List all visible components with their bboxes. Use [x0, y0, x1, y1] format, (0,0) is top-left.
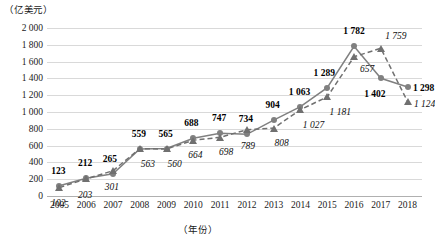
x-axis-tick: 2011	[211, 200, 230, 210]
x-axis-tick: 2016	[345, 200, 364, 210]
plot-area: 2 0001 8001 6001 4001 2001 0008006004002…	[47, 28, 422, 196]
gridline	[47, 196, 422, 197]
y-axis-tick: 1 400	[0, 73, 43, 83]
y-axis-tick: 600	[0, 141, 43, 151]
y-axis-tick: 1 200	[0, 90, 43, 100]
data-point-circle	[378, 75, 384, 81]
data-point-triangle	[270, 125, 278, 132]
data-label-series-a: 734	[239, 114, 253, 124]
x-axis-tick: 2009	[157, 200, 176, 210]
data-point-triangle	[109, 167, 117, 174]
data-point-circle	[405, 84, 411, 90]
y-axis-tick: 2 000	[0, 23, 43, 33]
x-axis-title: （年份）	[178, 222, 218, 236]
data-label-series-b: 203	[78, 190, 92, 200]
data-point-triangle	[136, 145, 144, 152]
data-label-series-b: 563	[141, 159, 155, 169]
data-label-series-a: 1 289	[314, 68, 335, 78]
data-label-series-a: 123	[51, 166, 65, 176]
data-label-series-a: 565	[158, 129, 172, 139]
data-point-triangle	[189, 137, 197, 144]
y-axis-tick: 1 600	[0, 57, 43, 67]
line-series-a	[59, 46, 407, 185]
data-label-series-a: 688	[184, 118, 198, 128]
x-axis-tick: 2017	[371, 200, 390, 210]
x-axis-tick: 2006	[77, 200, 96, 210]
x-axis-tick: 2010	[184, 200, 203, 210]
data-label-series-a: 747	[212, 113, 226, 123]
data-label-series-a: 212	[78, 158, 92, 168]
y-axis-tick: 1 000	[0, 107, 43, 117]
series-lines	[47, 28, 422, 196]
data-label-series-b: 1 181	[330, 107, 351, 117]
data-label-series-b: 560	[167, 159, 181, 169]
data-label-series-a: 1 782	[343, 26, 364, 36]
data-label-series-b: 1 027	[303, 120, 324, 130]
data-point-triangle	[55, 184, 63, 191]
data-label-series-b: 1 759	[385, 31, 406, 41]
data-label-series-a: 559	[132, 129, 146, 139]
data-label-series-b: 102	[51, 198, 65, 208]
data-label-series-a: 265	[103, 154, 117, 164]
x-axis-tick: 2018	[398, 200, 417, 210]
data-point-triangle	[243, 126, 251, 133]
data-label-series-b: 301	[105, 182, 119, 192]
data-point-triangle	[323, 93, 331, 100]
x-axis-tick: 2013	[264, 200, 283, 210]
data-label-series-a: 1 063	[289, 87, 310, 97]
y-axis-tick: 800	[0, 124, 43, 134]
data-label-series-b: 657	[360, 64, 374, 74]
data-point-triangle	[82, 175, 90, 182]
data-label-series-b: 789	[241, 141, 255, 151]
data-label-series-a: 1 402	[364, 89, 385, 99]
data-label-series-a: 1 298	[413, 83, 434, 93]
data-point-triangle	[404, 98, 412, 105]
y-axis-unit-label: （亿美元）	[4, 2, 53, 16]
data-label-series-a: 904	[266, 100, 280, 110]
data-point-circle	[271, 117, 277, 123]
data-point-triangle	[163, 145, 171, 152]
data-point-circle	[324, 85, 330, 91]
data-label-series-b: 808	[275, 138, 289, 148]
x-axis-tick: 2015	[318, 200, 337, 210]
y-axis-tick: 200	[0, 174, 43, 184]
data-label-series-b: 698	[219, 147, 233, 157]
x-axis-tick: 2012	[237, 200, 256, 210]
data-label-series-b: 1 124	[414, 99, 435, 109]
data-point-triangle	[350, 53, 358, 60]
y-axis-tick: 0	[0, 191, 43, 201]
y-axis-tick: 1 800	[0, 40, 43, 50]
x-axis-tick: 2008	[130, 200, 149, 210]
data-point-triangle	[216, 134, 224, 141]
x-axis-tick: 2014	[291, 200, 310, 210]
data-point-triangle	[377, 45, 385, 52]
data-point-triangle	[296, 106, 304, 113]
y-axis-tick: 400	[0, 157, 43, 167]
data-label-series-b: 664	[188, 150, 202, 160]
x-axis-tick: 2007	[103, 200, 122, 210]
